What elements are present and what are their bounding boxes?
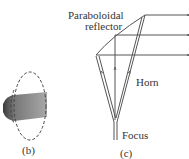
caption-b: (b) bbox=[22, 145, 35, 156]
label-reflector: reflector bbox=[85, 21, 122, 32]
caption-c: (c) bbox=[120, 148, 132, 159]
label-focus: Focus bbox=[122, 130, 148, 141]
ray-arrowheads bbox=[187, 14, 189, 56]
figure-b-beam bbox=[3, 72, 47, 140]
label-horn: Horn bbox=[136, 77, 159, 88]
